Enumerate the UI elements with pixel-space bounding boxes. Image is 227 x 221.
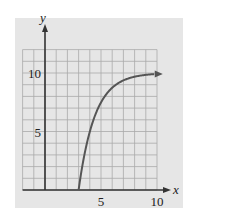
grid xyxy=(23,50,157,190)
chart: 510510xy xyxy=(0,0,227,221)
curve-arrowhead-icon xyxy=(155,71,163,78)
y-axis-label: y xyxy=(38,10,46,25)
y-axis-arrow-icon xyxy=(42,24,48,32)
y-tick-label: 5 xyxy=(35,125,42,140)
x-axis-arrow-icon xyxy=(163,187,171,193)
axis-labels: 510510xy xyxy=(28,10,179,209)
y-tick-label: 10 xyxy=(28,66,41,81)
x-tick-label: 10 xyxy=(151,194,164,209)
x-tick-label: 5 xyxy=(98,194,105,209)
x-axis-label: x xyxy=(172,182,179,197)
